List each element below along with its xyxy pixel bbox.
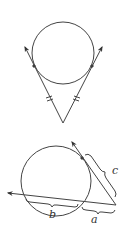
circle-2: [21, 146, 91, 216]
circle-1: [32, 22, 94, 84]
tangent-point-right: [91, 65, 93, 67]
tangent-secant-figure: [8, 142, 116, 216]
label-a: a: [91, 213, 98, 226]
tick-marks-right: [73, 96, 80, 101]
left-tangent: [25, 47, 63, 123]
brace-a: [82, 207, 115, 214]
tangent-point: [81, 157, 83, 159]
secant-line: [8, 193, 116, 205]
label-b: b: [49, 208, 56, 221]
label-c: c: [112, 164, 118, 177]
tangent-tangent-figure: [25, 22, 102, 123]
geometry-diagram: c b a: [0, 0, 128, 239]
right-tangent: [63, 47, 102, 123]
tangent-point-left: [33, 65, 35, 67]
tangent-line: [72, 142, 116, 205]
